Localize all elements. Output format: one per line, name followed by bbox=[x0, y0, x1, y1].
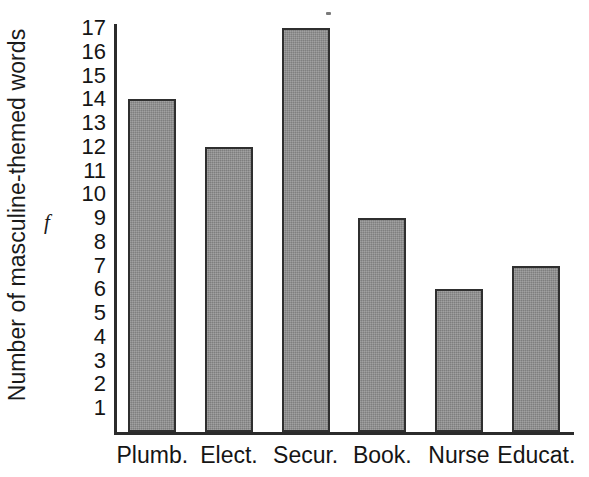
y-axis-tick-label: 17 bbox=[82, 17, 106, 39]
plot-area bbox=[114, 24, 574, 434]
scan-speck-artifact bbox=[326, 12, 331, 15]
y-axis-tick-label: 2 bbox=[94, 373, 106, 395]
y-axis-title: Number of masculine-themed words bbox=[0, 0, 34, 430]
y-axis-tick-label: 7 bbox=[94, 255, 106, 277]
frequency-symbol-label: f bbox=[44, 210, 50, 235]
y-axis-tick-label: 9 bbox=[94, 207, 106, 229]
y-axis-tick-labels: 1716151413121110987654321 bbox=[60, 0, 106, 477]
y-axis-tick-label: 11 bbox=[83, 160, 106, 182]
y-axis-tick-label: 4 bbox=[94, 326, 106, 348]
y-axis-tick-label: 1 bbox=[94, 397, 106, 419]
bar bbox=[282, 28, 330, 432]
y-axis-tick-label: 5 bbox=[94, 302, 106, 324]
x-axis-tick-label: Educat. bbox=[497, 440, 574, 470]
bar bbox=[205, 147, 253, 432]
y-axis-tick-label: 10 bbox=[82, 183, 106, 205]
x-axis-tick-label: Book. bbox=[344, 440, 421, 470]
y-axis-tick-label: 6 bbox=[94, 278, 106, 300]
x-axis-tick-label: Nurse bbox=[421, 440, 498, 470]
x-axis-tick-labels: Plumb.Elect.Secur.Book.NurseEducat. bbox=[114, 440, 584, 474]
x-axis-tick-label: Elect. bbox=[191, 440, 268, 470]
bar-chart-figure: Number of masculine-themed words f 17161… bbox=[0, 0, 589, 477]
x-axis-tick-label: Plumb. bbox=[114, 440, 191, 470]
x-axis-tick-label: Secur. bbox=[267, 440, 344, 470]
y-axis-tick-label: 14 bbox=[82, 88, 106, 110]
y-axis-tick-label: 15 bbox=[82, 65, 106, 87]
y-axis-tick-label: 13 bbox=[82, 112, 106, 134]
y-axis-tick-label: 16 bbox=[82, 41, 106, 63]
y-axis-tick-label: 8 bbox=[94, 231, 106, 253]
y-axis-tick-label: 3 bbox=[94, 350, 106, 372]
bar bbox=[512, 266, 560, 432]
bar-series bbox=[114, 24, 574, 434]
bar bbox=[128, 99, 176, 432]
bar bbox=[358, 218, 406, 432]
y-axis-tick-label: 12 bbox=[82, 136, 106, 158]
bar bbox=[435, 289, 483, 432]
